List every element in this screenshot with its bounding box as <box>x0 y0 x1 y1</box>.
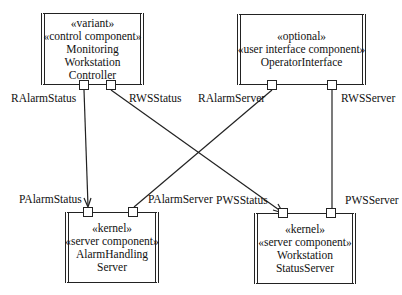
port-label-pwsserver: PWSServer <box>345 194 399 207</box>
stereotype-server-component: «server component» <box>258 236 352 249</box>
component-name-line: Workstation <box>65 56 121 69</box>
port-label-palarmserver: PAlarmServer <box>148 193 213 206</box>
component-monitoring-workstation-controller[interactable]: «variant» «control component» Monitoring… <box>41 13 144 85</box>
port-rwsstatus[interactable] <box>106 80 116 90</box>
port-label-pwsstatus: PWSStatus <box>216 194 268 207</box>
component-workstation-status-server[interactable]: «kernel» «server component» Workstation … <box>254 213 356 284</box>
component-alarm-handling-server[interactable]: «kernel» «server component» AlarmHandlin… <box>65 212 159 283</box>
port-label-rwsstatus: RWSStatus <box>129 92 181 105</box>
component-operator-interface[interactable]: «optional» «user interface component» Op… <box>237 14 366 85</box>
port-label-ralarmstatus: RAlarmStatus <box>11 92 76 105</box>
port-rwsserver[interactable] <box>327 80 337 90</box>
stereotype-server-component: «server component» <box>65 235 159 248</box>
port-label-palarmstatus: PAlarmStatus <box>19 193 82 206</box>
port-label-rwsserver: RWSServer <box>341 92 395 105</box>
component-name-line: AlarmHandling <box>76 248 148 261</box>
port-label-ralarmserver: RAlarmServer <box>198 92 265 105</box>
stereotype-user-interface-component: «user interface component» <box>238 43 366 56</box>
stereotype-variant: «variant» <box>71 17 114 30</box>
port-pwsstatus[interactable] <box>278 208 288 218</box>
stereotype-kernel: «kernel» <box>285 223 325 236</box>
component-name-line: OperatorInterface <box>261 56 343 69</box>
component-name-line: Workstation <box>277 249 333 262</box>
port-ralarmserver[interactable] <box>267 80 277 90</box>
component-name-line: Monitoring <box>66 43 118 56</box>
stereotype-control-component: «control component» <box>43 30 141 43</box>
port-ralarmstatus[interactable] <box>79 80 89 90</box>
stereotype-optional: «optional» <box>277 30 326 43</box>
component-name-line: StatusServer <box>276 262 334 275</box>
port-pwsserver[interactable] <box>326 208 336 218</box>
port-palarmserver[interactable] <box>128 207 138 217</box>
component-name-line: Server <box>97 261 127 274</box>
stereotype-kernel: «kernel» <box>92 222 132 235</box>
port-palarmstatus[interactable] <box>83 207 93 217</box>
connector-alarm-status <box>84 90 88 206</box>
